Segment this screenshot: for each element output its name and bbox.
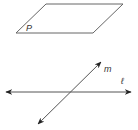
line-m-label: m (104, 64, 112, 74)
line-l-label: ℓ (120, 76, 124, 86)
plane-label: P (26, 23, 32, 33)
line-m (38, 62, 101, 124)
diagram-canvas: P ℓ m (0, 0, 138, 130)
plane-p (16, 4, 123, 33)
